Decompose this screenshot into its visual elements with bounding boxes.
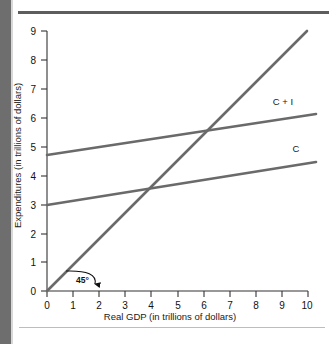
y-tick-label-5: 5	[30, 142, 36, 153]
x-tick-label-7: 7	[227, 300, 233, 311]
y-tick-label-9: 9	[30, 26, 36, 37]
y-tick-labels-group: 9 8 7 6 5 4 3 2 1 0	[30, 26, 36, 297]
y-tick-label-3: 3	[30, 200, 36, 211]
angle-annotation-group: 45°	[66, 271, 95, 285]
series-line-c	[47, 162, 316, 205]
x-tick-label-2: 2	[96, 300, 102, 311]
series-label-c-plus-i: C + I	[273, 96, 293, 107]
x-tick-label-6: 6	[201, 300, 207, 311]
y-tick-label-8: 8	[30, 55, 36, 66]
x-tick-label-0: 0	[44, 300, 50, 311]
x-tick-label-9: 9	[279, 300, 285, 311]
x-tick-label-1: 1	[70, 300, 76, 311]
x-tick-label-8: 8	[253, 300, 259, 311]
series-label-c: C	[293, 143, 300, 154]
x-tick-label-5: 5	[175, 300, 181, 311]
y-ticks-group	[41, 31, 47, 291]
x-ticks-group	[47, 291, 308, 297]
series-line-45-degree	[47, 31, 307, 291]
x-tick-label-10: 10	[301, 300, 313, 311]
series-line-c-plus-i	[47, 114, 316, 155]
y-tick-label-0: 0	[30, 286, 36, 297]
figure-root: Expenditures (in trillions of dollars) R…	[0, 0, 334, 344]
x-tick-label-4: 4	[148, 300, 154, 311]
series-lines-group	[47, 31, 316, 291]
series-labels-group: C + I C	[273, 96, 300, 154]
angle-annotation-label: 45°	[76, 275, 89, 285]
x-tick-label-3: 3	[122, 300, 128, 311]
y-tick-label-2: 2	[30, 229, 36, 240]
x-tick-labels-group: 0 1 2 3 4 5 6 7 8 9 10	[44, 300, 313, 311]
chart-svg: 9 8 7 6 5 4 3 2 1 0	[0, 0, 334, 344]
y-tick-label-7: 7	[30, 84, 36, 95]
y-tick-label-4: 4	[30, 171, 36, 182]
plot-area: 9 8 7 6 5 4 3 2 1 0	[0, 0, 334, 344]
y-tick-label-1: 1	[30, 257, 36, 268]
y-tick-label-6: 6	[30, 113, 36, 124]
